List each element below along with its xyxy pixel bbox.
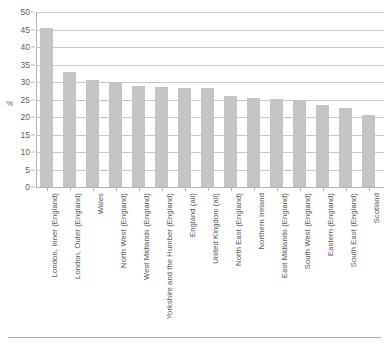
x-category-label: United Kingdom (all) xyxy=(211,193,220,264)
y-axis-tick-labels: 05101520253035404550 xyxy=(0,0,36,200)
bar xyxy=(109,82,122,187)
x-tick-mark xyxy=(93,187,94,191)
bar xyxy=(339,108,352,187)
x-category-label: London, Inner (England) xyxy=(50,193,59,277)
bottom-divider xyxy=(8,337,381,338)
bar xyxy=(86,80,99,187)
x-tick-mark xyxy=(300,187,301,191)
x-category-label: West Midlands (England) xyxy=(142,193,151,280)
y-tick-mark xyxy=(31,82,35,83)
x-axis-tick-marks xyxy=(36,187,384,192)
x-tick-mark xyxy=(162,187,163,191)
y-tick-mark xyxy=(31,47,35,48)
y-tick-mark xyxy=(31,134,35,135)
y-tick-label: 35 xyxy=(21,60,30,70)
y-tick-label: 50 xyxy=(21,7,30,17)
y-tick-label: 10 xyxy=(21,147,30,157)
x-category-label: South West (England) xyxy=(303,193,312,269)
x-category-label: England (all) xyxy=(188,193,197,237)
plot-area xyxy=(36,12,384,187)
x-tick-mark xyxy=(70,187,71,191)
x-tick-mark xyxy=(369,187,370,191)
y-tick-label: 5 xyxy=(25,165,30,175)
bar xyxy=(201,88,214,187)
x-axis-category-labels: London, Inner (England)London, Outer (En… xyxy=(36,193,384,323)
y-tick-mark xyxy=(31,187,35,188)
bar xyxy=(293,100,306,188)
x-category-label: Wales xyxy=(96,193,105,214)
y-tick-mark xyxy=(31,99,35,100)
bar xyxy=(63,72,76,188)
bar xyxy=(316,105,329,187)
x-tick-mark xyxy=(208,187,209,191)
y-tick-label: 25 xyxy=(21,95,30,105)
x-category-label: Yorkshire and the Humber (England) xyxy=(165,193,174,319)
bar xyxy=(270,99,283,187)
x-tick-mark xyxy=(231,187,232,191)
x-tick-mark xyxy=(185,187,186,191)
y-tick-label: 15 xyxy=(21,130,30,140)
bar xyxy=(224,96,237,187)
y-tick-mark xyxy=(31,12,35,13)
bar xyxy=(178,88,191,187)
y-tick-mark xyxy=(31,152,35,153)
bars-layer xyxy=(36,12,384,187)
y-tick-mark xyxy=(31,64,35,65)
x-tick-mark xyxy=(116,187,117,191)
x-category-label: Scotland xyxy=(372,193,381,223)
bar xyxy=(155,87,168,187)
bar xyxy=(247,98,260,187)
x-tick-mark xyxy=(346,187,347,191)
x-category-label: North East (England) xyxy=(234,193,243,266)
bar xyxy=(132,86,145,187)
x-tick-mark xyxy=(254,187,255,191)
y-tick-label: 20 xyxy=(21,112,30,122)
y-tick-label: 45 xyxy=(21,25,30,35)
x-category-label: London, Outer (England) xyxy=(73,193,82,279)
y-tick-label: 30 xyxy=(21,77,30,87)
y-tick-label: 0 xyxy=(25,182,30,192)
bar xyxy=(362,115,375,187)
y-tick-mark xyxy=(31,29,35,30)
x-category-label: North West (England) xyxy=(119,193,128,268)
y-tick-mark xyxy=(31,117,35,118)
x-category-label: Northern Ireland xyxy=(257,193,266,249)
x-category-label: South East (England) xyxy=(349,193,358,267)
x-tick-mark xyxy=(277,187,278,191)
bar-chart-figure: % 05101520253035404550 London, Inner (En… xyxy=(0,0,389,349)
y-tick-label: 40 xyxy=(21,42,30,52)
x-category-label: East Midlands (England) xyxy=(280,193,289,278)
x-tick-mark xyxy=(323,187,324,191)
bar xyxy=(40,28,53,187)
x-category-label: Eastern (England) xyxy=(326,193,335,256)
x-tick-mark xyxy=(139,187,140,191)
y-tick-mark xyxy=(31,169,35,170)
x-tick-mark xyxy=(47,187,48,191)
